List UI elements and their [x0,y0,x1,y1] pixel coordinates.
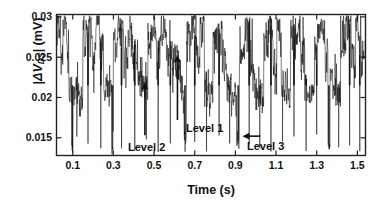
annotation-level-2: Level 2 [128,141,165,153]
plot-area [0,0,388,208]
x-tick-label: 0.3 [93,160,133,171]
y-tick-label: 0.015 [6,132,52,143]
y-tick-label: 0.025 [6,52,52,63]
y-axis-tick-labels: 0.0150.020.0250.03 [0,0,52,208]
x-axis-tick-labels: 0.10.30.50.70.91.11.31.5 [0,160,388,176]
annotation-level-3: Level 3 [247,140,284,152]
x-tick-label: 1.5 [337,160,377,171]
y-tick-label: 0.02 [6,92,52,103]
x-tick-label: 0.5 [134,160,174,171]
x-tick-label: 0.7 [175,160,215,171]
x-tick-label: 0.9 [215,160,255,171]
x-tick-label: 1.3 [297,160,337,171]
x-tick-label: 0.1 [53,160,93,171]
y-tick-label: 0.03 [6,11,52,22]
rtn-trace-figure: |ΔVDS| (mV) 0.0150.020.0250.03 0.10.30.5… [0,0,388,208]
arrow-level-3 [242,133,260,140]
x-tick-label: 1.1 [256,160,296,171]
annotation-level-1: Level 1 [186,122,223,134]
x-axis-title: Time (s) [56,183,366,197]
